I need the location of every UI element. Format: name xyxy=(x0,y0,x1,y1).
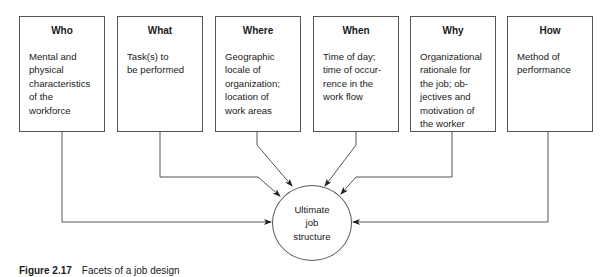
facet-description: Mental and physical characteristics of t… xyxy=(29,50,100,117)
ultimate-job-structure-circle: Ultimate job structure xyxy=(272,185,352,261)
facet-box-why: Why Organizational rationale for the job… xyxy=(410,16,496,132)
facet-box-when: When Time of day; time of occur- rence i… xyxy=(313,16,399,132)
facet-description: Organizational rationale for the job; ob… xyxy=(420,50,491,130)
connector-why xyxy=(341,132,452,194)
figure-number: Figure 2.17 xyxy=(19,265,72,276)
facet-description: Task(s) to be performed xyxy=(127,50,198,77)
figure-caption-text: Facets of a job design xyxy=(82,265,180,276)
facet-title: Who xyxy=(20,25,104,37)
hub-label: Ultimate job structure xyxy=(293,203,330,243)
facet-title: What xyxy=(118,25,202,37)
connector-when xyxy=(325,132,356,186)
connector-where xyxy=(257,132,292,186)
facet-title: How xyxy=(508,25,592,37)
facet-box-where: Where Geographic locale of organization;… xyxy=(215,16,301,132)
facet-description: Method of performance xyxy=(517,50,588,77)
facet-box-who: Who Mental and physical characteristics … xyxy=(19,16,105,132)
facet-title: Why xyxy=(411,25,495,37)
facet-title: Where xyxy=(216,25,300,37)
connector-what xyxy=(160,132,280,196)
figure-caption: Figure 2.17Facets of a job design xyxy=(19,265,180,277)
facet-description: Time of day; time of occur- rence in the… xyxy=(323,50,394,104)
facet-title: When xyxy=(314,25,398,37)
facet-box-how: How Method of performance xyxy=(507,16,593,132)
facet-description: Geographic locale of organization; locat… xyxy=(225,50,296,117)
facet-box-what: What Task(s) to be performed xyxy=(117,16,203,132)
